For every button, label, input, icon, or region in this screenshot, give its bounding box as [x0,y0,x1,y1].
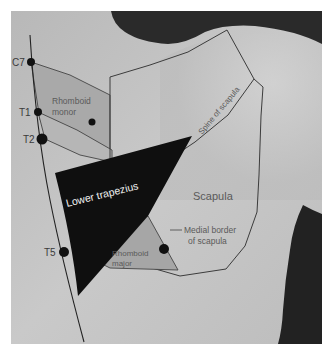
vertebra-label-t1: T1 [19,107,31,118]
vertebra-marker-c7 [27,58,35,66]
rhomboid-major-label-1: Rhomboid [112,249,148,258]
scapula-label: Scapula [193,190,234,202]
shoulder-highlight [160,33,322,200]
vertebra-marker-t1 [34,108,42,116]
vertebra-marker-t5 [59,247,69,257]
rhomboid-minor-marker [89,119,96,126]
vertebra-label-t5: T5 [44,247,56,258]
anatomy-svg: C7 T1 T2 T5 Rhomboid monor Spine of scap… [0,0,333,356]
anatomy-figure: C7 T1 T2 T5 Rhomboid monor Spine of scap… [0,0,333,356]
rhomboid-minor-label-2: monor [52,107,76,117]
rhomboid-major-label-2: major [112,259,132,268]
medial-border-label-2: of scapula [188,236,227,246]
medial-border-label-1: Medial border [184,225,236,235]
vertebra-marker-t2 [37,134,48,145]
vertebra-label-t2: T2 [23,134,35,145]
rhomboid-major-marker [159,244,169,254]
rhomboid-minor-label-1: Rhomboid [52,96,91,106]
vertebra-label-c7: C7 [12,57,25,68]
